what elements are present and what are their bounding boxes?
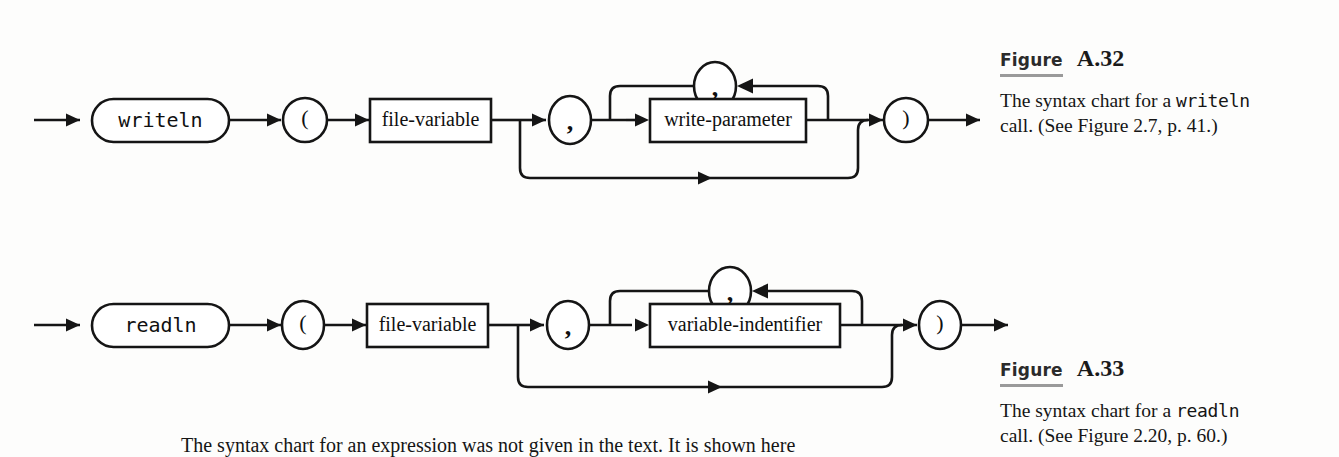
file-variable-node: file-variable	[367, 304, 488, 347]
close-paren-label: )	[936, 310, 943, 335]
link-comma-to-variableidentifier	[589, 319, 649, 332]
write-parameter-node: write-parameter	[650, 99, 806, 142]
keyword-readln-label: readln	[124, 313, 196, 337]
file-variable-label: file-variable	[382, 108, 480, 130]
loop-comma-label: ,	[727, 278, 734, 307]
variable-indentifier-node: variable-indentifier	[650, 304, 840, 347]
link-filevariable-to-comma	[491, 114, 546, 127]
main-entry-arrow	[34, 319, 80, 332]
keyword-writeln-label: writeln	[118, 108, 202, 132]
close-paren-node: )	[919, 301, 961, 349]
main-entry-arrow	[34, 114, 80, 127]
caption-code-readln: readln	[1176, 400, 1239, 421]
figure-caption-a32-heading: Figure A.32	[1000, 46, 1250, 77]
figure-label-word: Figure	[1000, 362, 1063, 387]
caption-text-part1: The syntax chart for a	[1000, 90, 1176, 111]
page-canvas: writeln ( file-variable	[0, 0, 1339, 457]
link-variableidentifier-to-closeparen	[840, 319, 917, 332]
link-readln-to-openparen	[229, 319, 281, 332]
comma-separator-label: ,	[567, 107, 574, 136]
link-writeln-to-openparen	[229, 114, 281, 127]
keyword-readln-node: readln	[92, 304, 229, 347]
link-comma-to-writeparameter	[591, 114, 649, 127]
link-filevariable-to-comma	[488, 319, 544, 332]
main-exit-arrow	[961, 319, 1008, 332]
close-paren-node: )	[884, 98, 928, 142]
writeln-syntax-diagram: writeln ( file-variable	[0, 20, 1000, 205]
comma-separator-node: ,	[547, 301, 589, 349]
open-paren-label: (	[299, 310, 306, 335]
figure-caption-a33-heading: Figure A.33	[1000, 356, 1250, 387]
caption-text-part2: call. (See Figure 2.7, p. 41.)	[1000, 115, 1218, 136]
figure-number: A.33	[1077, 356, 1124, 380]
link-openparen-to-filevariable	[327, 114, 369, 127]
figure-caption-a32-text: The syntax chart for a writeln call. (Se…	[1000, 89, 1250, 139]
figure-label-word: Figure	[1000, 52, 1063, 77]
figure-number: A.32	[1077, 46, 1124, 70]
variable-indentifier-label: variable-indentifier	[668, 313, 823, 335]
comma-separator-label: ,	[565, 312, 572, 341]
link-writeparameter-to-closeparen	[806, 114, 883, 127]
write-parameter-label: write-parameter	[664, 108, 792, 131]
figure-caption-a33-text: The syntax chart for a readln call. (See…	[1000, 399, 1250, 449]
body-paragraph: The syntax chart for an expression was n…	[181, 432, 1011, 457]
open-paren-label: (	[301, 105, 308, 130]
open-paren-node: (	[282, 301, 324, 349]
caption-code-writeln: writeln	[1176, 90, 1250, 111]
comma-separator-node: ,	[549, 96, 591, 144]
loop-comma-label: ,	[712, 73, 719, 102]
caption-text-part2: call. (See Figure 2.20, p. 60.)	[1000, 425, 1227, 446]
keyword-writeln-node: writeln	[92, 99, 229, 142]
close-paren-label: )	[902, 105, 909, 130]
figure-caption-a33: Figure A.33 The syntax chart for a readl…	[1000, 356, 1250, 449]
link-openparen-to-filevariable	[324, 319, 366, 332]
open-paren-node: (	[283, 98, 327, 142]
file-variable-label: file-variable	[379, 313, 477, 335]
main-exit-arrow	[928, 114, 980, 127]
readln-syntax-diagram: readln ( file-variable	[0, 225, 1010, 410]
figure-caption-a32: Figure A.32 The syntax chart for a write…	[1000, 46, 1250, 139]
caption-text-part1: The syntax chart for a	[1000, 400, 1176, 421]
file-variable-node: file-variable	[370, 99, 491, 142]
